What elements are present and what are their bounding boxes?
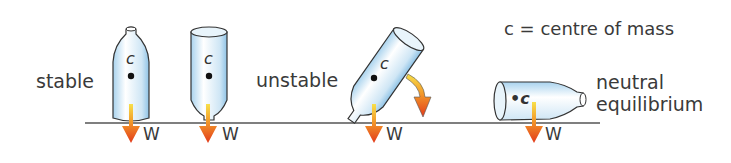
label-unstable: unstable bbox=[256, 71, 338, 90]
weight-label-4: W bbox=[545, 126, 562, 143]
com-label-1: c bbox=[126, 51, 135, 67]
label-equilibrium: equilibrium bbox=[596, 95, 703, 114]
com-label-2: c bbox=[204, 51, 213, 67]
label-stable: stable bbox=[36, 72, 94, 91]
weight-label-2: W bbox=[222, 126, 239, 143]
tipping-arrow-icon bbox=[406, 74, 431, 117]
weight-label-3: W bbox=[386, 126, 403, 143]
com-label-4: •c bbox=[510, 91, 530, 107]
label-neutral: neutral bbox=[596, 73, 664, 92]
legend-text: c = centre of mass bbox=[504, 20, 674, 38]
weight-label-1: W bbox=[143, 126, 160, 143]
bottle-lying-icon bbox=[494, 82, 586, 120]
com-dot-tilted bbox=[371, 75, 377, 81]
com-label-3: c bbox=[380, 56, 389, 72]
stability-diagram: stable unstable neutral equilibrium c = … bbox=[0, 0, 731, 163]
